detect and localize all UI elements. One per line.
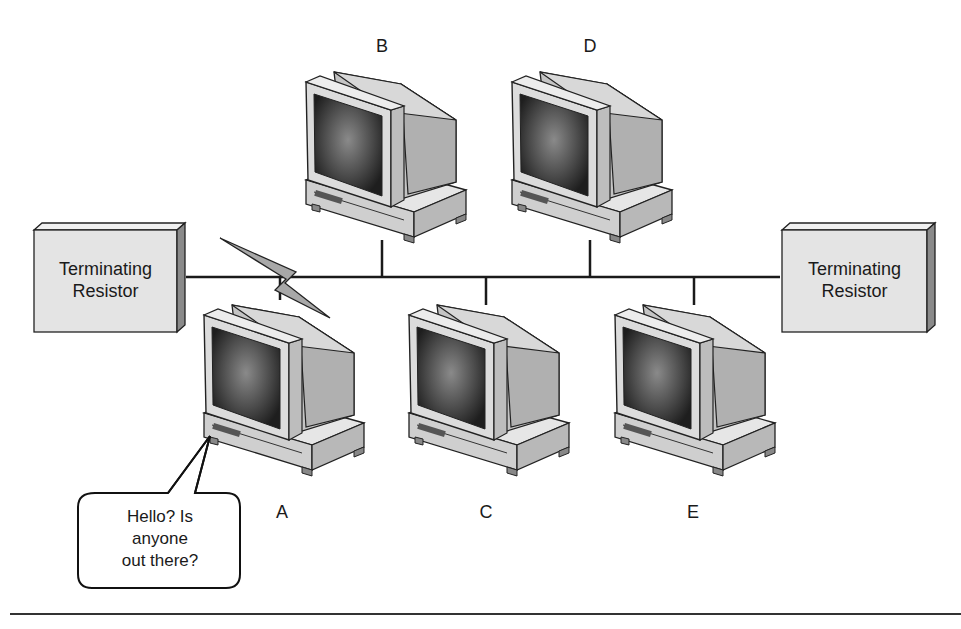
label-C: C — [476, 502, 496, 523]
computer-D — [512, 72, 672, 243]
label-E: E — [683, 502, 703, 523]
terminator-right-line2: Resistor — [782, 280, 927, 302]
terminator-left-line1: Terminating — [34, 258, 177, 280]
terminator-left-line2: Resistor — [34, 280, 177, 302]
bubble-line3: out there? — [80, 550, 240, 572]
terminator-left-label: Terminating Resistor — [34, 258, 177, 302]
bubble-line2: anyone — [80, 528, 240, 550]
terminator-right-line1: Terminating — [782, 258, 927, 280]
terminator-right-label: Terminating Resistor — [782, 258, 927, 302]
label-A: A — [272, 502, 292, 523]
computer-E — [615, 305, 775, 476]
speech-bubble-text: Hello? Is anyone out there? — [80, 506, 240, 572]
label-B: B — [372, 36, 392, 57]
computer-B — [306, 72, 466, 243]
bubble-line1: Hello? Is — [80, 506, 240, 528]
computer-A — [204, 305, 364, 476]
label-D: D — [580, 36, 600, 57]
computer-C — [409, 305, 569, 476]
